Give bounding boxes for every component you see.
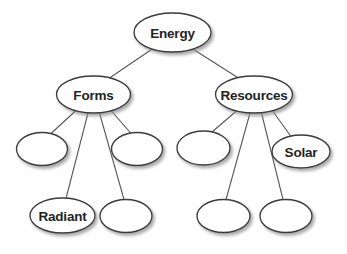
node-resources[interactable]: Resources <box>216 76 293 113</box>
nodes-layer: EnergyFormsResourcesRadiantSolar <box>17 13 331 233</box>
node-label-forms: Forms <box>73 88 113 103</box>
node-resources-child-2[interactable]: Solar <box>272 135 330 168</box>
node-shape-resources-child-1[interactable] <box>177 131 230 165</box>
node-energy[interactable]: Energy <box>134 13 211 52</box>
edge-energy-to-forms <box>108 49 153 80</box>
edge-forms-to-forms-child-1 <box>51 111 76 134</box>
node-label-energy: Energy <box>150 26 195 41</box>
edges-layer <box>51 49 291 200</box>
node-label-resources: Resources <box>220 88 287 103</box>
node-resources-child-4[interactable] <box>260 200 312 233</box>
node-shape-forms-child-2[interactable] <box>112 133 163 166</box>
node-shape-forms-child-4[interactable] <box>100 200 152 233</box>
node-forms-child-4[interactable] <box>100 200 152 233</box>
node-shape-forms-child-1[interactable] <box>17 133 68 166</box>
node-forms-child-1[interactable] <box>17 133 68 166</box>
node-forms-child-2[interactable] <box>112 133 163 166</box>
node-resources-child-3[interactable] <box>197 200 250 233</box>
node-resources-child-1[interactable] <box>177 131 230 165</box>
edge-resources-to-resources-child-3 <box>226 113 250 200</box>
edge-forms-to-forms-child-3 <box>66 113 88 199</box>
node-label-resources-child-2: Solar <box>285 145 319 160</box>
concept-map-diagram: EnergyFormsResourcesRadiantSolar <box>0 0 347 254</box>
node-shape-resources-child-3[interactable] <box>197 200 250 233</box>
concept-map-canvas: EnergyFormsResourcesRadiantSolar <box>0 0 347 254</box>
node-forms-child-3[interactable]: Radiant <box>30 198 95 233</box>
node-label-forms-child-3: Radiant <box>38 209 87 224</box>
node-shape-resources-child-4[interactable] <box>260 200 312 233</box>
edge-resources-to-resources-child-2 <box>272 110 291 137</box>
edge-energy-to-resources <box>192 49 240 80</box>
edge-forms-to-forms-child-2 <box>111 111 131 134</box>
node-forms[interactable]: Forms <box>57 76 131 113</box>
edge-resources-to-resources-child-1 <box>212 111 237 133</box>
